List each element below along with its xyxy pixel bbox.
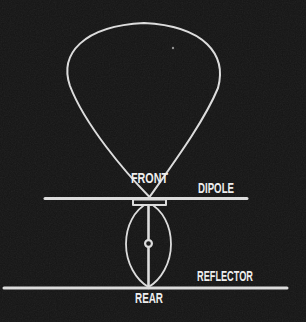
antenna-radiation-pattern-figure: FRONT DIPOLE REFLECTOR REAR — [0, 0, 306, 322]
antenna-pattern-svg: FRONT DIPOLE REFLECTOR REAR — [0, 0, 306, 322]
film-grain-overlay — [0, 0, 306, 322]
